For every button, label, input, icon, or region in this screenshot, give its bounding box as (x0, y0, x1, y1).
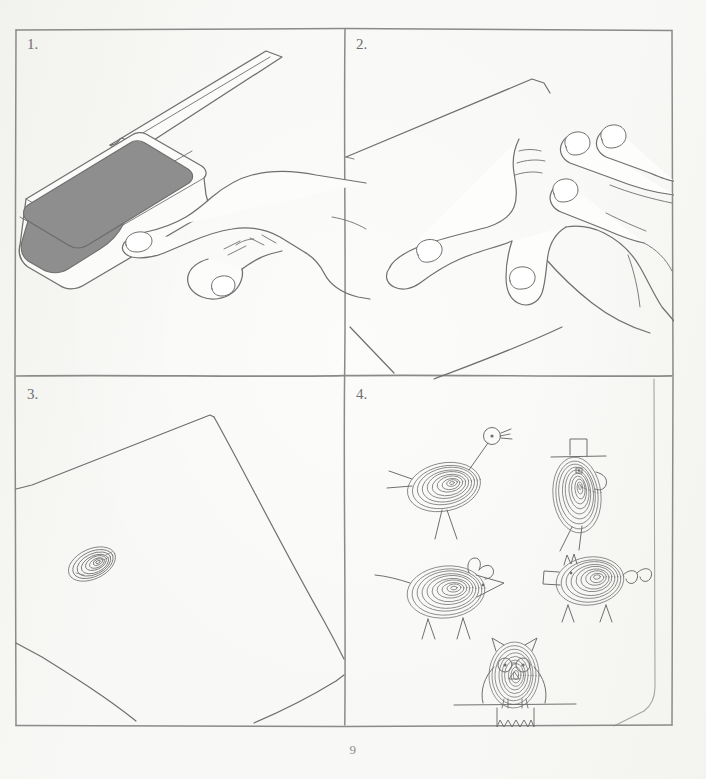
creature-ostrich (387, 428, 512, 540)
creature-mouse (375, 558, 504, 639)
creature-owl (454, 638, 576, 727)
panel-grid: 1. (14, 27, 674, 728)
creature-pig (543, 553, 652, 622)
panel-4-label: 4. (356, 386, 367, 402)
creature-bird-top-hat (549, 439, 606, 551)
book-page: 1. (0, 0, 706, 779)
page-number: 9 (0, 742, 706, 758)
panel-4-artwork: 4. (14, 27, 674, 728)
